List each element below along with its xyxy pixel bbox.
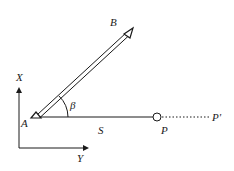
label-beta: β xyxy=(69,99,76,111)
label-b: B xyxy=(110,16,117,28)
line-ab-double xyxy=(38,33,130,118)
label-a: A xyxy=(20,117,28,129)
coordinate-axes xyxy=(19,90,86,148)
circle-p-icon xyxy=(153,113,161,121)
label-p-prime: P' xyxy=(211,111,222,123)
label-x-axis: X xyxy=(15,71,24,83)
label-p: P xyxy=(160,124,168,136)
triangle-b-icon xyxy=(124,28,133,38)
diagram-svg: B X A β S P P' Y xyxy=(0,0,234,171)
label-s: S xyxy=(98,124,104,136)
diagram-canvas: B X A β S P P' Y xyxy=(0,0,234,171)
label-y-axis: Y xyxy=(77,152,85,164)
